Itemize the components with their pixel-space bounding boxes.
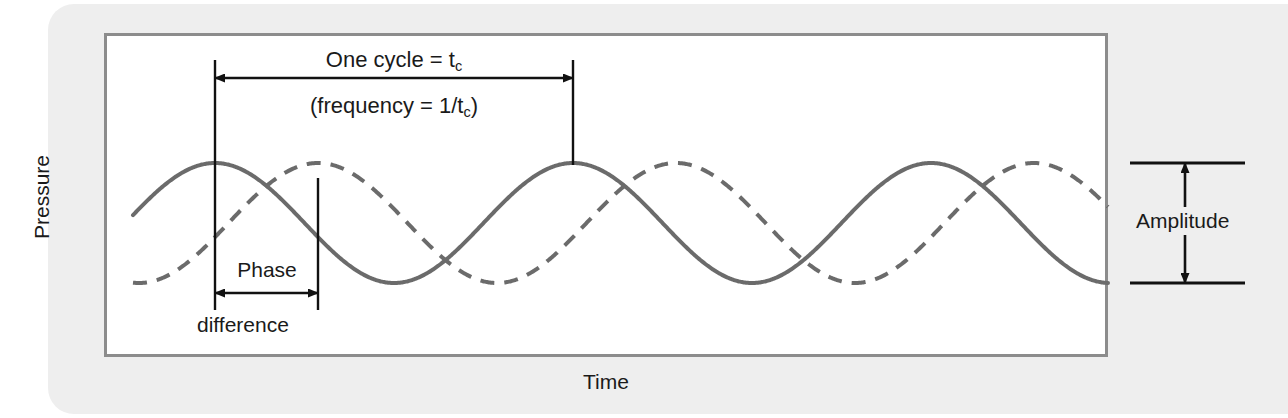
amplitude-label: Amplitude [1136, 207, 1276, 235]
y-axis-label: Pressure [30, 137, 54, 257]
one-cycle-subscript: c [455, 58, 462, 74]
frequency-text: (frequency = 1/t [310, 93, 463, 118]
phase-label: Phase [215, 258, 319, 282]
frequency-subscript: c [463, 104, 470, 120]
one-cycle-text: One cycle = t [326, 47, 455, 72]
difference-label: difference [197, 313, 337, 337]
wave-properties-diagram: Pressure Time One cycle = tc (frequency … [0, 0, 1288, 418]
x-axis-label: Time [506, 370, 706, 394]
frequency-close-paren: ) [471, 93, 478, 118]
one-cycle-label: One cycle = tc [224, 47, 564, 74]
frequency-label: (frequency = 1/tc) [224, 93, 564, 120]
wave-canvas [0, 0, 1288, 418]
